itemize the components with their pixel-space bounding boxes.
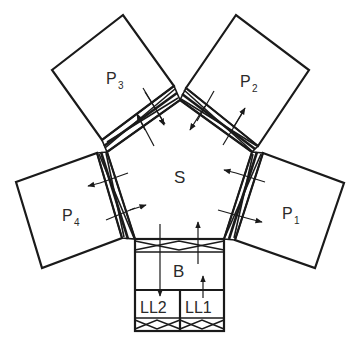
chamber-p1: P 1 xyxy=(218,152,344,268)
label-p1-sub: 1 xyxy=(294,215,300,226)
arrow-to-p2-icon xyxy=(233,108,245,128)
label-b: B xyxy=(173,262,184,281)
label-s: S xyxy=(174,168,185,187)
chamber-p3: P 3 xyxy=(52,15,180,152)
chamber-p2: P 2 xyxy=(180,15,309,152)
cluster-tool-diagram: S P 3 P 2 P 4 xyxy=(0,0,353,347)
label-ll2: LL2 xyxy=(140,299,167,316)
arrow-to-s-icon-4 xyxy=(130,205,146,210)
label-p4-sub: 4 xyxy=(74,217,80,228)
arrow-to-p4-icon xyxy=(88,183,100,186)
arrow-to-s-icon xyxy=(163,123,164,125)
chamber-b: B LL2 LL1 xyxy=(135,222,224,331)
label-p1: P xyxy=(282,205,293,222)
chamber-p4: P 4 xyxy=(16,152,146,268)
label-p2: P xyxy=(240,73,251,90)
label-p2-sub: 2 xyxy=(252,83,258,94)
arrow-to-s-icon-1 xyxy=(224,170,236,173)
arrow-to-p1-icon xyxy=(250,219,262,222)
label-p4: P xyxy=(62,207,73,224)
label-p3-sub: 3 xyxy=(118,80,124,91)
label-p3: P xyxy=(106,70,117,87)
label-ll1: LL1 xyxy=(185,299,212,316)
